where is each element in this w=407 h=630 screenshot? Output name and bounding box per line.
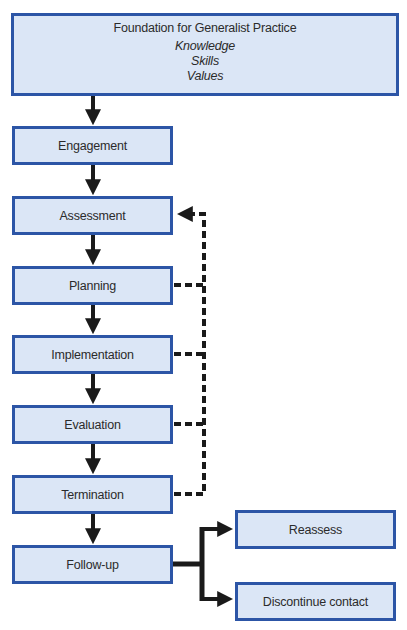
branch-arrows: [173, 527, 226, 601]
dashed-feedback-loop: [174, 214, 204, 494]
connector-arrows: [0, 0, 407, 630]
